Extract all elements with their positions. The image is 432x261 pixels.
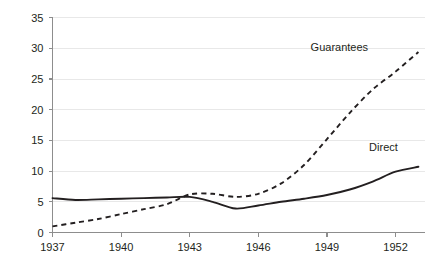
series-label-direct: Direct: [369, 141, 398, 153]
x-tick-label: 1949: [315, 241, 339, 253]
chart-canvas: 05101520253035 193719401943194619491952 …: [0, 0, 432, 261]
x-tick-label: 1943: [177, 241, 201, 253]
axes: [53, 18, 426, 233]
x-tick-label: 1940: [109, 241, 133, 253]
x-tick-label: 1937: [40, 241, 64, 253]
y-tick-label: 20: [31, 104, 43, 116]
data-series: [53, 52, 419, 226]
x-tick-label: 1952: [383, 241, 407, 253]
y-tick-label: 10: [31, 165, 43, 177]
y-tick-label: 15: [31, 134, 43, 146]
series-line-guarantees: [53, 52, 419, 226]
y-tick-label: 25: [31, 73, 43, 85]
line-chart: 05101520253035 193719401943194619491952 …: [0, 0, 432, 261]
y-axis-ticks: 05101520253035: [31, 12, 52, 239]
series-line-direct: [53, 167, 419, 209]
gridlines: [53, 18, 426, 202]
series-label-guarantees: Guarantees: [311, 41, 369, 53]
y-tick-label: 35: [31, 12, 43, 24]
y-tick-label: 0: [37, 227, 43, 239]
series-labels: DirectGuarantees: [311, 41, 398, 154]
y-tick-label: 5: [37, 196, 43, 208]
y-tick-label: 30: [31, 42, 43, 54]
x-axis-ticks: 193719401943194619491952: [40, 233, 408, 253]
x-tick-label: 1946: [246, 241, 270, 253]
